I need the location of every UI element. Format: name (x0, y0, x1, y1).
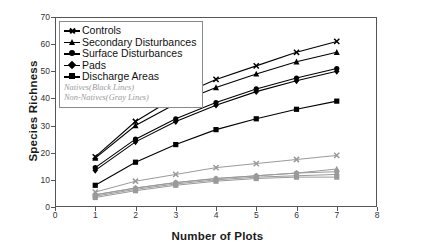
y-axis-title: Species Richness (27, 31, 39, 191)
x-tick-label: 1 (85, 210, 105, 220)
x-tick-mark (176, 207, 177, 211)
x-tick-mark (136, 207, 137, 211)
y-tick-label: 60 (24, 40, 50, 48)
square-marker-icon (64, 71, 80, 82)
x-tick-label: 2 (126, 210, 146, 220)
series-non-natives-controls (93, 153, 340, 195)
legend-item-label: Discharge Areas (82, 71, 159, 83)
x-tick-mark (297, 207, 298, 211)
diamond-marker-icon (64, 60, 80, 71)
x-tick-mark (95, 207, 96, 211)
circle-marker-icon (64, 48, 80, 59)
x-tick-label: 3 (166, 210, 186, 220)
legend-note: Non-Natives(Gray Lines) (64, 93, 196, 104)
x-marker-icon (64, 25, 80, 36)
x-axis-title: Number of Plots (0, 230, 435, 242)
legend-entries: ControlsSecondary DisturbancesSurface Di… (64, 25, 196, 83)
x-tick-mark (256, 207, 257, 211)
y-tick-label: 10 (24, 176, 50, 184)
legend-note: Natives(Black Lines) (64, 83, 196, 94)
x-tick-label: 5 (246, 210, 266, 220)
y-tick-label: 20 (24, 149, 50, 157)
legend-item[interactable]: Discharge Areas (64, 71, 196, 83)
chart-legend: ControlsSecondary DisturbancesSurface Di… (59, 21, 203, 108)
legend-item[interactable]: Surface Disturbances (64, 48, 196, 60)
x-tick-mark (337, 207, 338, 211)
x-tick-label: 7 (327, 210, 347, 220)
x-tick-label: 0 (45, 210, 65, 220)
x-tick-label: 6 (287, 210, 307, 220)
legend-item-label: Surface Disturbances (82, 48, 182, 60)
x-tick-mark (377, 207, 378, 211)
x-tick-label: 4 (206, 210, 226, 220)
y-tick-label: 70 (24, 13, 50, 21)
legend-item[interactable]: Controls (64, 25, 196, 37)
legend-notes: Natives(Black Lines)Non-Natives(Gray Lin… (64, 83, 196, 104)
x-tick-mark (55, 207, 56, 211)
triangle-marker-icon (64, 37, 80, 48)
y-tick-label: 40 (24, 94, 50, 102)
y-tick-label: 50 (24, 67, 50, 75)
y-tick-label: 30 (24, 122, 50, 130)
x-tick-mark (216, 207, 217, 211)
species-accumulation-chart: Species Richness Number of Plots 0102030… (0, 0, 435, 250)
x-tick-label: 8 (367, 210, 387, 220)
legend-item-label: Controls (82, 25, 121, 37)
